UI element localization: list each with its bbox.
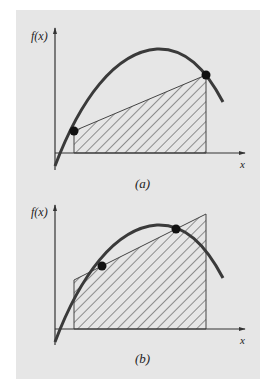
panel-a: f(x) x (a) (31, 28, 245, 191)
point-b1 (98, 262, 107, 271)
point-a1 (70, 127, 79, 136)
figure-svg: f(x) x (a) f(x) x (b) (0, 0, 275, 391)
point-a2 (202, 71, 211, 80)
point-b2 (172, 225, 181, 234)
caption-b: (b) (135, 351, 150, 366)
x-axis-label-a: x (239, 158, 245, 170)
x-axis-label-b: x (239, 334, 245, 346)
caption-a: (a) (135, 176, 150, 191)
panel-b: f(x) x (b) (31, 205, 245, 366)
y-axis-label-b: f(x) (31, 205, 48, 219)
y-axis-label-a: f(x) (31, 29, 48, 43)
hatched-trapezoid-a (74, 75, 206, 153)
